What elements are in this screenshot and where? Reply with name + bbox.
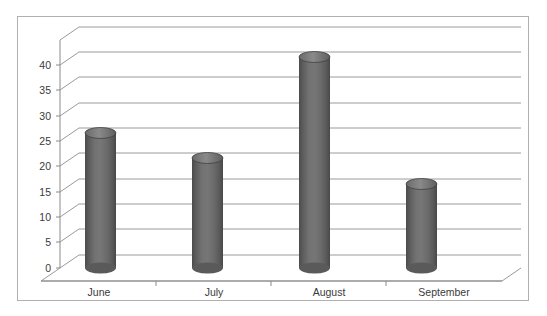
chart-container: 40 35 30 25 20 15 10 5 0: [0, 0, 547, 316]
y-tick-label: 25: [39, 135, 51, 147]
bar-september[interactable]: [406, 179, 437, 274]
y-tick-label: 35: [39, 84, 51, 96]
y-tick-label: 30: [39, 110, 51, 122]
y-tick-label: 0: [45, 262, 51, 274]
x-tick-label-june: June: [88, 286, 111, 298]
y-tick-label: 5: [45, 236, 51, 248]
x-tick-label-august: August: [313, 286, 346, 298]
x-tick-label-july: July: [205, 286, 224, 298]
y-tick-labels: 40 35 30 25 20 15 10 5 0: [39, 59, 51, 274]
y-tick-label: 10: [39, 211, 51, 223]
x-tick-labels: June July August September: [88, 286, 471, 298]
y-tick-label: 15: [39, 186, 51, 198]
y-tick-label: 40: [39, 59, 51, 71]
bar-chart-3d: 40 35 30 25 20 15 10 5 0: [0, 0, 547, 316]
bar-june[interactable]: [85, 128, 116, 274]
x-tick-label-september: September: [418, 286, 470, 298]
bar-july[interactable]: [192, 153, 223, 274]
bar-august[interactable]: [299, 52, 330, 274]
gridlines: [60, 27, 521, 268]
y-axis: [56, 40, 60, 268]
y-tick-label: 20: [39, 160, 51, 172]
